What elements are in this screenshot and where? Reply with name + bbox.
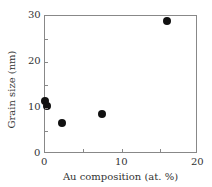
- y-tick-0: 0: [34, 148, 40, 158]
- x-axis-label: Au composition (at. %): [44, 171, 197, 182]
- x-tick-mark: [160, 149, 161, 152]
- y-tick-mark: [45, 85, 48, 86]
- y-tick-30: 30: [28, 10, 41, 20]
- y-tick-10: 10: [28, 102, 41, 112]
- x-tick-mark: [83, 149, 84, 152]
- y-tick-mark: [45, 62, 48, 63]
- x-tick-0: 0: [41, 157, 47, 167]
- plot-area: [44, 15, 197, 153]
- y-axis-label: Grain size (nm): [6, 40, 17, 140]
- x-tick-20: 20: [191, 157, 204, 167]
- data-point: [98, 110, 106, 118]
- y-tick-mark: [45, 108, 48, 109]
- data-point: [58, 119, 66, 127]
- x-tick-10: 10: [115, 157, 128, 167]
- y-tick-mark: [45, 39, 48, 40]
- data-point: [163, 17, 171, 25]
- y-tick-mark: [45, 131, 48, 132]
- x-tick-mark: [122, 149, 123, 152]
- y-tick-20: 20: [28, 56, 41, 66]
